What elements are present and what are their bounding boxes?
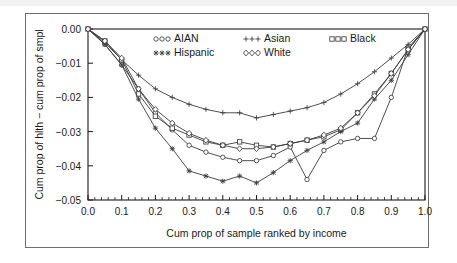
- legend-item-aian: AIAN: [154, 32, 199, 44]
- legend-label: AIAN: [174, 32, 199, 44]
- x-tick-label: 0.9: [384, 206, 398, 217]
- plot-area: 0.00.10.20.30.40.50.60.70.80.91.00.00−0.…: [33, 24, 432, 239]
- x-tick-label: 0.2: [148, 206, 162, 217]
- y-axis-title: Cum prop of hlth − cum prop of smpl: [33, 29, 45, 199]
- x-tick-label: 0.6: [283, 206, 297, 217]
- legend-item-black: Black: [330, 32, 377, 44]
- series-aian: [86, 27, 427, 182]
- y-tick-label: −0.03: [56, 127, 82, 138]
- y-tick-label: −0.05: [56, 195, 82, 206]
- x-tick-label: 0.4: [216, 206, 230, 217]
- x-tick-label: 0.7: [317, 206, 331, 217]
- x-tick-label: 0.1: [115, 206, 129, 217]
- y-tick-label: −0.02: [56, 92, 82, 103]
- x-axis-title: Cum prop of sample ranked by income: [166, 227, 346, 239]
- series-asian: [85, 26, 427, 120]
- y-tick-label: 0.00: [62, 24, 82, 35]
- legend-item-hispanic: Hispanic: [153, 46, 214, 58]
- figure-root: 0.00.10.20.30.40.50.60.70.80.91.00.00−0.…: [0, 0, 457, 263]
- y-tick-label: −0.04: [56, 161, 82, 172]
- legend-item-white: White: [243, 46, 291, 58]
- x-tick-label: 1.0: [418, 206, 432, 217]
- legend-label: White: [264, 46, 291, 58]
- series-white: [85, 26, 427, 152]
- y-axis: 0.00−0.01−0.02−0.03−0.04−0.05: [56, 24, 93, 206]
- lorenz-difference-chart: 0.00.10.20.30.40.50.60.70.80.91.00.00−0.…: [0, 0, 457, 263]
- x-tick-label: 0.3: [182, 206, 196, 217]
- x-tick-label: 0.5: [250, 206, 264, 217]
- y-tick-label: −0.01: [56, 58, 82, 69]
- legend-label: Asian: [264, 32, 290, 44]
- x-axis: 0.00.10.20.30.40.50.60.70.80.91.0: [81, 195, 432, 217]
- legend-label: Hispanic: [174, 46, 214, 58]
- legend-item-asian: Asian: [243, 32, 290, 44]
- x-tick-label: 0.8: [351, 206, 365, 217]
- x-tick-label: 0.0: [81, 206, 95, 217]
- legend-label: Black: [350, 32, 376, 44]
